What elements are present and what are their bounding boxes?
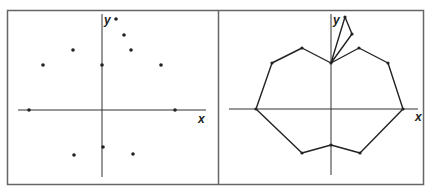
vertex-point (270, 61, 273, 64)
vertex-point (350, 32, 353, 35)
vertex-point (358, 151, 361, 154)
vertex-point (254, 107, 257, 110)
y-axis-label: y (332, 13, 341, 27)
right-panel-apple: y x (229, 13, 423, 175)
data-point (131, 152, 135, 156)
data-point (122, 33, 126, 37)
vertex-point (329, 143, 332, 146)
outer-frame (8, 11, 424, 185)
apple-outline (254, 15, 404, 154)
data-point (114, 17, 118, 21)
data-point (41, 63, 45, 67)
data-point (72, 153, 76, 157)
data-point (159, 63, 163, 67)
data-point (129, 48, 133, 52)
x-axis-label: x (414, 110, 423, 124)
data-point (27, 108, 31, 112)
data-point (100, 63, 104, 67)
y-axis-label: y (103, 13, 112, 27)
left-panel-scatter: y x (18, 13, 206, 177)
data-point (101, 145, 105, 149)
vertex-point (329, 61, 332, 64)
apple-outline-path (256, 48, 403, 153)
vertex-point (343, 15, 346, 18)
vertex-point (300, 151, 303, 154)
data-point (173, 108, 177, 112)
vertex-point (357, 46, 360, 49)
vertex-point (401, 107, 404, 110)
figure: y x y x (0, 0, 428, 191)
vertex-point (300, 46, 303, 49)
data-point (71, 48, 75, 52)
x-axis-label: x (197, 112, 206, 126)
vertex-point (386, 61, 389, 64)
